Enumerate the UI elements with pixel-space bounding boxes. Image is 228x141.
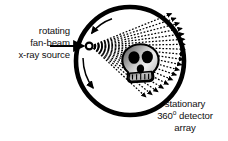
- detector-degrees-value: 360: [157, 110, 173, 121]
- source-label: rotating fan-beam x-ray source: [0, 25, 72, 61]
- source-label-line2: fan-beam: [0, 37, 70, 49]
- source-label-line3: x-ray source: [0, 49, 70, 61]
- ct-scanner-diagram: rotating fan-beam x-ray source stationar…: [0, 0, 228, 141]
- detector-label-line3: array: [142, 122, 228, 134]
- skull-cross-section: [122, 44, 158, 82]
- detector-label-line1: stationary: [142, 98, 228, 110]
- detector-label: stationary 360o detector array: [142, 98, 228, 134]
- x-ray-source-point: [86, 43, 93, 50]
- rotation-arrow-bottom: [83, 58, 93, 88]
- detector-label-line2-suffix: detector: [176, 110, 212, 121]
- skull-eye-socket-left: [128, 51, 139, 64]
- detector-label-line2: 360o detector: [142, 110, 228, 122]
- skull-eye-socket-right: [142, 51, 153, 64]
- source-label-line1: rotating: [0, 25, 70, 37]
